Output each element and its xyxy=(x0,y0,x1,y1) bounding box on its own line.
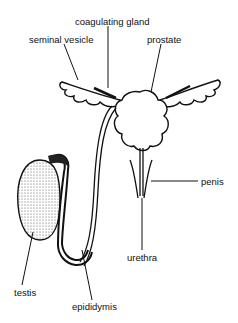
label-prostate: prostate xyxy=(147,35,181,45)
label-epididymis: epididymis xyxy=(72,302,117,312)
label-coagulating-gland: coagulating gland xyxy=(75,17,149,27)
label-urethra: urethra xyxy=(127,253,157,263)
testis xyxy=(18,160,60,240)
vas-deferens xyxy=(80,106,116,266)
label-penis: penis xyxy=(201,177,224,187)
urethra-penis xyxy=(130,148,152,198)
seminal-vesicle-left xyxy=(60,82,120,107)
label-seminal-vesicle: seminal vesicle xyxy=(29,35,93,45)
label-testis: testis xyxy=(14,288,36,298)
reproductive-system-illustration xyxy=(0,0,238,323)
seminal-vesicle-right xyxy=(160,80,220,107)
